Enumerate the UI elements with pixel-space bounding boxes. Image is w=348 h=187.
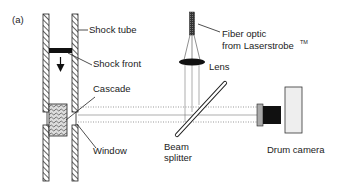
leader-lines: [66, 24, 220, 148]
panel-label: (a): [12, 14, 24, 25]
shock-front: [49, 48, 72, 53]
shock-tube-left-wall-upper: [43, 14, 49, 112]
shock-tube-left-wall-lower: [43, 125, 49, 181]
fiber-optic-label-line1: Fiber optic: [222, 28, 267, 39]
beam-splitter-label-line2: splitter: [164, 152, 192, 163]
fiber-optic: [190, 12, 195, 35]
beam-splitter: [177, 83, 225, 135]
camera-lens-ring: [257, 104, 263, 126]
shock-front-label: Shock front: [93, 58, 141, 69]
camera-body: [285, 87, 302, 133]
shock-tube: [43, 14, 78, 181]
window-label: Window: [93, 145, 127, 156]
shock-tube-label: Shock tube: [89, 24, 137, 35]
shock-tube-right-wall-upper: [72, 14, 78, 112]
light-path: [78, 107, 258, 122]
fiber-optic-label-line2: from Laserstrobe: [222, 40, 294, 51]
trademark-label: TM: [300, 39, 308, 45]
camera-lens-barrel: [263, 106, 281, 124]
lens: [179, 59, 205, 66]
drum-camera: [257, 87, 302, 133]
beam-splitter-label-line1: Beam: [164, 141, 189, 152]
light-cone: [184, 35, 200, 60]
cascade-label: Cascade: [93, 83, 131, 94]
experimental-setup-diagram: (a): [0, 0, 348, 187]
down-arrow-icon: [57, 57, 65, 72]
cascade: [49, 104, 67, 136]
lens-label: Lens: [209, 61, 230, 72]
shock-tube-right-wall-lower: [72, 125, 78, 181]
drum-camera-label: Drum camera: [267, 144, 325, 155]
